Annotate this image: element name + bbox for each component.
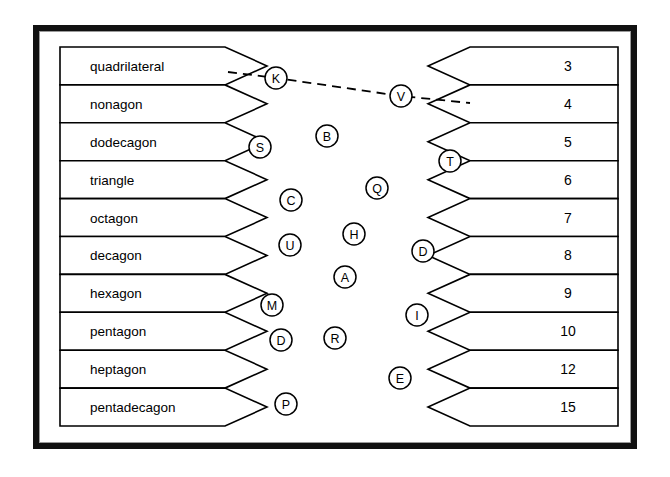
side-count-card-shape[interactable] (428, 85, 618, 123)
polygon-name-label: nonagon (90, 97, 143, 112)
side-count-label: 12 (560, 361, 576, 377)
polygon-name-label: octagon (90, 211, 138, 226)
letter-token-label: M (267, 299, 277, 313)
letter-token[interactable]: C (280, 189, 302, 211)
side-count-label: 15 (560, 399, 576, 415)
letter-token-label: E (396, 372, 404, 386)
letter-token-label: D (276, 334, 285, 348)
letter-token[interactable]: R (324, 327, 346, 349)
side-count-card-shape[interactable] (428, 199, 618, 237)
polygon-name-list: quadrilateralnonagondodecagontriangleoct… (60, 47, 267, 426)
side-count-card[interactable]: 10 (428, 312, 618, 350)
letter-token-label: B (323, 130, 331, 144)
letter-token-label: U (285, 239, 294, 253)
side-count-label: 8 (564, 247, 572, 263)
side-count-card-shape[interactable] (428, 388, 618, 426)
polygon-name-card[interactable]: octagon (60, 199, 267, 237)
letter-token-label: H (349, 228, 358, 242)
letter-token-label: V (397, 90, 406, 104)
letter-token[interactable]: Q (366, 177, 388, 199)
letter-token[interactable]: T (439, 150, 461, 172)
letter-token-label: T (446, 155, 454, 169)
side-count-card[interactable]: 7 (428, 199, 618, 237)
matching-board: quadrilateralnonagondodecagontriangleoct… (0, 0, 670, 477)
letter-token[interactable]: D (412, 240, 434, 262)
letter-token[interactable]: B (316, 125, 338, 147)
worksheet-canvas: quadrilateralnonagondodecagontriangleoct… (0, 0, 670, 477)
polygon-name-label: triangle (90, 173, 134, 188)
polygon-name-card[interactable]: pentagon (60, 312, 267, 350)
side-count-list: 3456789101215 (428, 47, 618, 426)
side-count-label: 6 (564, 172, 572, 188)
letter-token[interactable]: U (279, 234, 301, 256)
side-count-card-shape[interactable] (428, 237, 618, 275)
side-count-card[interactable]: 3 (428, 47, 618, 85)
letter-token-label: P (282, 398, 290, 412)
polygon-name-label: hexagon (90, 286, 142, 301)
polygon-name-card[interactable]: dodecagon (60, 123, 267, 161)
polygon-name-card[interactable]: nonagon (60, 85, 267, 123)
polygon-name-label: pentadecagon (90, 400, 176, 415)
letter-token-label: K (272, 72, 281, 86)
letter-token-label: I (415, 309, 418, 323)
side-count-label: 9 (564, 285, 572, 301)
letter-token[interactable]: D (270, 329, 292, 351)
side-count-card[interactable]: 9 (428, 274, 618, 312)
side-count-label: 4 (564, 96, 572, 112)
side-count-card[interactable]: 12 (428, 350, 618, 388)
letter-token[interactable]: E (389, 367, 411, 389)
letter-token[interactable]: I (406, 304, 428, 326)
polygon-name-card[interactable]: triangle (60, 161, 267, 199)
side-count-label: 10 (560, 323, 576, 339)
letter-token[interactable]: V (390, 85, 412, 107)
polygon-name-card[interactable]: hexagon (60, 274, 267, 312)
letter-token[interactable]: K (265, 67, 287, 89)
side-count-label: 3 (564, 58, 572, 74)
polygon-name-card[interactable]: quadrilateral (60, 47, 267, 85)
letter-token[interactable]: H (343, 223, 365, 245)
side-count-card[interactable]: 4 (428, 85, 618, 123)
polygon-name-label: decagon (90, 248, 142, 263)
side-count-card-shape[interactable] (428, 312, 618, 350)
letter-token[interactable]: P (275, 393, 297, 415)
polygon-name-card[interactable]: decagon (60, 237, 267, 275)
side-count-card[interactable]: 8 (428, 237, 618, 275)
side-count-card-shape[interactable] (428, 350, 618, 388)
letter-token-label: A (341, 271, 350, 285)
letter-token-label: S (256, 141, 264, 155)
letter-token-layer: KVSBTCQHUDAMIDREP (249, 67, 461, 415)
polygon-name-label: heptagon (90, 362, 146, 377)
letter-token[interactable]: M (261, 294, 283, 316)
polygon-name-label: pentagon (90, 324, 146, 339)
polygon-name-label: quadrilateral (90, 59, 164, 74)
polygon-name-card[interactable]: heptagon (60, 350, 267, 388)
connection-layer (228, 72, 470, 103)
letter-token-label: R (330, 332, 339, 346)
quadrilateral-to-4-link[interactable] (228, 72, 470, 103)
side-count-label: 5 (564, 134, 572, 150)
letter-token[interactable]: S (249, 136, 271, 158)
letter-token-label: C (286, 194, 295, 208)
letter-token[interactable]: A (334, 266, 356, 288)
side-count-label: 7 (564, 210, 572, 226)
polygon-name-card[interactable]: pentadecagon (60, 388, 267, 426)
letter-token-label: D (418, 245, 427, 259)
side-count-card[interactable]: 15 (428, 388, 618, 426)
side-count-card-shape[interactable] (428, 47, 618, 85)
letter-token-label: Q (372, 182, 382, 196)
side-count-card-shape[interactable] (428, 274, 618, 312)
polygon-name-label: dodecagon (90, 135, 157, 150)
